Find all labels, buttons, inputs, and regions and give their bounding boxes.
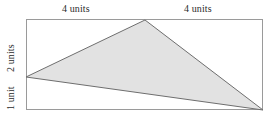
figure-canvas — [0, 0, 273, 118]
geometry-figure: 4 units 4 units 2 units 1 unit — [0, 0, 273, 118]
label-top-right-4-units: 4 units — [184, 3, 212, 14]
label-left-1-unit: 1 unit — [5, 86, 16, 110]
label-top-left-4-units: 4 units — [62, 3, 90, 14]
label-left-2-units: 2 units — [5, 44, 16, 72]
shaded-triangle — [26, 20, 263, 110]
